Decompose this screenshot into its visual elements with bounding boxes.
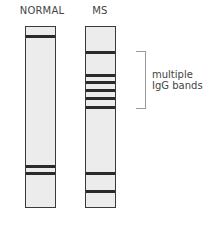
annotation-line2: IgG bands — [152, 80, 203, 91]
band — [86, 106, 115, 109]
band — [86, 97, 115, 100]
band — [26, 172, 55, 175]
band — [86, 74, 115, 77]
band — [86, 172, 115, 175]
label-ms: MS — [88, 5, 112, 16]
band — [86, 51, 115, 54]
band — [26, 165, 55, 168]
band — [86, 81, 115, 84]
annotation-text: multiple IgG bands — [152, 69, 203, 91]
band — [86, 190, 115, 193]
gel-strip-normal — [25, 26, 56, 208]
gel-strip-ms — [85, 26, 116, 208]
band — [86, 89, 115, 92]
annotation-line1: multiple — [152, 69, 203, 80]
band — [26, 35, 55, 38]
label-normal: NORMAL — [18, 5, 66, 16]
bracket — [136, 51, 146, 109]
